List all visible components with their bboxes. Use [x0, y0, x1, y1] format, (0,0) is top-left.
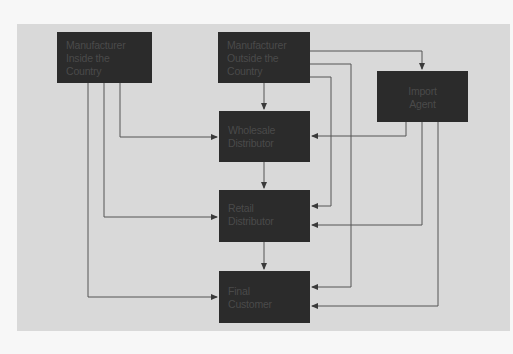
node-label: Wholesale — [228, 124, 301, 137]
node-label: Inside the — [66, 52, 143, 65]
node-label: Final — [228, 285, 301, 298]
edge-import-to-retail — [312, 122, 422, 225]
node-wholesale-distributor: Wholesale Distributor — [219, 111, 310, 162]
node-label: Manufacturer — [227, 39, 301, 52]
node-label: Outside the — [227, 52, 301, 65]
edge-mfr-inside-to-final — [88, 83, 217, 297]
node-label: Country — [227, 65, 301, 78]
node-manufacturer-outside: Manufacturer Outside the Country — [218, 32, 310, 83]
node-label: Manufacturer — [66, 39, 143, 52]
node-label: Distributor — [228, 137, 301, 150]
node-manufacturer-inside: Manufacturer Inside the Country — [57, 32, 152, 83]
node-label: Agent — [386, 98, 459, 111]
edge-mfr-outside-to-import — [310, 51, 422, 69]
edge-mfr-outside-to-retail — [310, 77, 331, 206]
node-import-agent: Import Agent — [377, 71, 468, 122]
node-label: Retail — [228, 202, 301, 215]
node-final-customer: Final Customer — [219, 271, 310, 323]
node-retail-distributor: Retail Distributor — [219, 190, 310, 242]
node-label: Distributor — [228, 215, 301, 228]
edge-import-to-wholesale — [312, 122, 406, 136]
edge-mfr-inside-to-retail — [104, 83, 217, 217]
edge-mfr-inside-to-wholesale — [120, 83, 217, 137]
node-label: Country — [66, 65, 143, 78]
node-label: Import — [386, 85, 459, 98]
node-label: Customer — [228, 298, 301, 311]
